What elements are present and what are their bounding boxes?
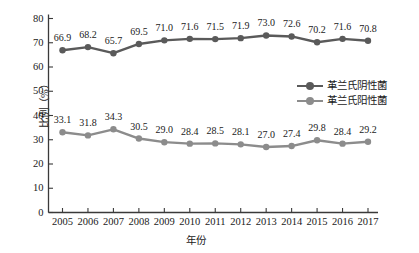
data-label: 65.7 bbox=[96, 36, 130, 46]
data-point bbox=[263, 144, 269, 150]
legend-marker-icon bbox=[297, 80, 323, 91]
data-point bbox=[314, 137, 320, 143]
data-point bbox=[288, 33, 294, 39]
x-tick-label: 2017 bbox=[351, 216, 385, 227]
data-point bbox=[187, 36, 193, 42]
data-point bbox=[161, 139, 167, 145]
data-point bbox=[59, 47, 65, 53]
y-tick-label: 10 bbox=[18, 183, 44, 193]
legend-marker-icon bbox=[297, 95, 323, 106]
legend-label: 革兰氏阴性菌 bbox=[327, 78, 387, 93]
data-point bbox=[136, 135, 142, 141]
data-point bbox=[187, 140, 193, 146]
y-tick-label: 60 bbox=[18, 62, 44, 72]
y-tick-label: 50 bbox=[18, 86, 44, 96]
data-point bbox=[59, 129, 65, 135]
data-point bbox=[161, 37, 167, 43]
y-tick-label: 0 bbox=[18, 208, 44, 218]
y-tick-label: 80 bbox=[18, 14, 44, 24]
data-point bbox=[339, 140, 345, 146]
y-tick-label: 20 bbox=[18, 159, 44, 169]
legend-item[interactable]: 革兰氏阳性菌 bbox=[297, 93, 387, 108]
y-tick-label: 30 bbox=[18, 135, 44, 145]
data-label: 70.8 bbox=[351, 24, 385, 34]
chart-container: 比例（%） 年份 01020304050607080 2005200620072… bbox=[0, 0, 419, 253]
data-point bbox=[110, 126, 116, 132]
y-tick-label: 70 bbox=[18, 38, 44, 48]
data-point bbox=[365, 38, 371, 44]
data-point bbox=[110, 50, 116, 56]
data-point bbox=[314, 39, 320, 45]
data-point bbox=[85, 44, 91, 50]
data-point bbox=[288, 143, 294, 149]
data-point bbox=[212, 36, 218, 42]
data-point bbox=[238, 35, 244, 41]
data-point bbox=[365, 138, 371, 144]
data-label: 29.2 bbox=[351, 125, 385, 135]
data-point bbox=[238, 141, 244, 147]
data-point bbox=[212, 140, 218, 146]
data-point bbox=[263, 32, 269, 38]
legend: 革兰氏阴性菌革兰氏阳性菌 bbox=[297, 78, 387, 108]
y-tick-label: 40 bbox=[18, 111, 44, 121]
legend-item[interactable]: 革兰氏阴性菌 bbox=[297, 78, 387, 93]
legend-label: 革兰氏阳性菌 bbox=[327, 93, 387, 108]
data-point bbox=[136, 41, 142, 47]
data-point bbox=[339, 36, 345, 42]
data-point bbox=[85, 132, 91, 138]
